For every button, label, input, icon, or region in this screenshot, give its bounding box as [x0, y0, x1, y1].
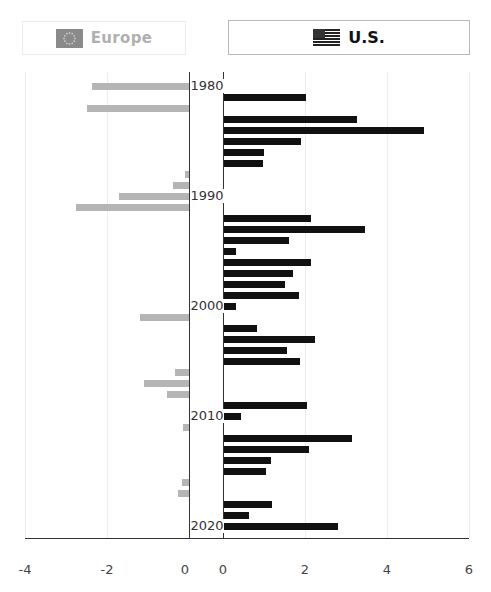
us-bar-1997 [224, 270, 293, 277]
year-label: 2010 [190, 409, 224, 423]
us-bar-1984 [224, 127, 424, 134]
us-bar-2010 [224, 413, 241, 420]
us-bar-2009 [224, 402, 307, 409]
x-tick-label: 0 [181, 562, 189, 577]
x-tick-label: 4 [383, 562, 391, 577]
europe-bar-1980 [92, 83, 189, 90]
us-bar-2019 [224, 512, 249, 519]
year-label: 1990 [190, 189, 224, 203]
us-bar-2014 [224, 457, 271, 464]
year-label: 1980 [190, 79, 224, 93]
us-bar-2003 [224, 336, 315, 343]
x-tick-label: -4 [19, 562, 32, 577]
us-bar-1983 [224, 116, 357, 123]
us-bar-2012 [224, 435, 352, 442]
us-bar-1992 [224, 215, 311, 222]
us-bar-1987 [224, 160, 263, 167]
europe-bar-2007 [144, 380, 189, 387]
x-axis-baseline [25, 538, 469, 539]
europe-bar-1990 [119, 193, 189, 200]
gridline [387, 72, 388, 538]
us-bar-2018 [224, 501, 272, 508]
us-bar-1995 [224, 248, 236, 255]
us-bar-1998 [224, 281, 285, 288]
us-bar-2000 [224, 303, 236, 310]
gridline [25, 72, 26, 538]
year-label: 2000 [190, 299, 224, 313]
gridline [107, 72, 108, 538]
us-bar-2020 [224, 523, 338, 530]
x-tick-label: 2 [301, 562, 309, 577]
year-label: 2020 [190, 519, 224, 533]
gridline [469, 72, 470, 538]
x-tick-label: 0 [219, 562, 227, 577]
us-bar-1981 [224, 94, 306, 101]
us-bar-2013 [224, 446, 309, 453]
us-bar-1996 [224, 259, 311, 266]
europe-bar-2001 [140, 314, 189, 321]
europe-bar-2017 [178, 490, 189, 497]
gridline [305, 72, 306, 538]
europe-bar-1989 [173, 182, 189, 189]
europe-bar-2008 [167, 391, 189, 398]
europe-bar-1991 [76, 204, 189, 211]
x-tick-label: -2 [101, 562, 114, 577]
us-bar-1985 [224, 138, 301, 145]
us-bar-1993 [224, 226, 365, 233]
europe-bar-1982 [87, 105, 189, 112]
x-tick-label: 6 [465, 562, 473, 577]
us-bar-1986 [224, 149, 264, 156]
us-bar-2005 [224, 358, 300, 365]
us-bar-2004 [224, 347, 287, 354]
us-bar-2015 [224, 468, 266, 475]
butterfly-bar-chart: 19801990200020102020 -4-200246 [0, 0, 491, 592]
europe-bar-2006 [175, 369, 189, 376]
us-bar-2002 [224, 325, 257, 332]
us-bar-1994 [224, 237, 289, 244]
europe-bar-2016 [182, 479, 189, 486]
us-bar-1999 [224, 292, 299, 299]
